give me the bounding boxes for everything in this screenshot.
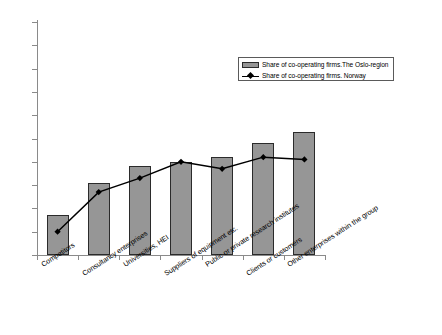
line-marker — [260, 154, 266, 160]
legend-item-norway: Share of co-operating firms. Norway — [242, 71, 390, 81]
legend-label-norway: Share of co-operating firms. Norway — [262, 73, 366, 80]
line-marker — [137, 175, 143, 181]
chart-container: 0%10%20%30%40%50%60%70%80%90%100% Compet… — [0, 0, 442, 335]
chart-legend: Share of co-operating firms.The Oslo-reg… — [238, 57, 394, 81]
legend-line-marker-swatch-icon — [242, 73, 259, 80]
legend-label-oslo-region: Share of co-operating firms.The Oslo-reg… — [262, 62, 389, 69]
legend-item-oslo-region: Share of co-operating firms.The Oslo-reg… — [242, 60, 390, 70]
line-marker — [178, 159, 184, 165]
line-marker — [219, 166, 225, 172]
line-marker — [301, 156, 307, 162]
legend-bar-swatch-icon — [242, 62, 259, 68]
x-axis-category-labels: CompetitorsConsultancy enterprisesUniver… — [0, 258, 442, 335]
